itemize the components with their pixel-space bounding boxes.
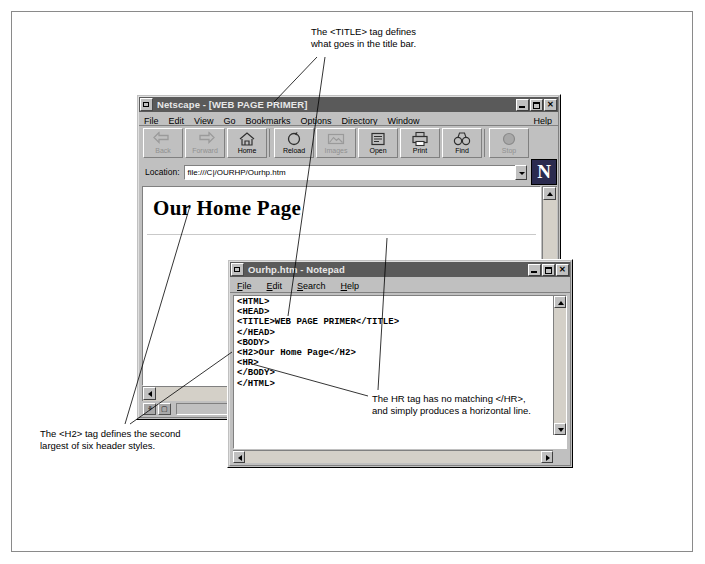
netscape-window-controls: ✕: [516, 99, 557, 111]
toolbar-back-button[interactable]: Back: [143, 128, 183, 158]
notepad-scroll-right-arrow-icon[interactable]: [541, 451, 553, 463]
notepad-menu-file[interactable]: File: [230, 281, 257, 291]
notepad-window[interactable]: Ourhp.htm - Notepad ✕ File Edit Search H…: [227, 259, 573, 468]
netscape-logo[interactable]: N: [531, 159, 557, 185]
binoculars-icon: [443, 130, 481, 147]
notepad-minimize-button[interactable]: [528, 264, 541, 276]
toolbar-reload-button[interactable]: Reload: [274, 128, 314, 158]
notepad-menubar[interactable]: File Edit Search Help: [230, 279, 570, 293]
toolbar-stop-label: Stop: [490, 147, 528, 155]
page-heading: Our Home Page: [153, 196, 301, 221]
annotation-h2-tag: The <H2> tag defines the second largest …: [40, 428, 181, 451]
location-dropdown-icon[interactable]: [515, 165, 527, 180]
page-horizontal-rule: [147, 234, 536, 235]
scroll-left-arrow-icon[interactable]: [143, 387, 156, 400]
house-icon: [228, 130, 266, 147]
notepad-scroll-down-arrow-icon[interactable]: [554, 423, 566, 435]
toolbar-separator-2: [484, 129, 485, 157]
toolbar-stop-button[interactable]: Stop: [489, 128, 529, 158]
menubar-divider: [139, 125, 558, 126]
printer-icon: [401, 130, 439, 147]
toolbar-forward-button[interactable]: Forward: [185, 128, 225, 158]
toolbar-forward-label: Forward: [186, 147, 224, 155]
images-icon: [317, 130, 355, 147]
notepad-system-menu-icon[interactable]: [231, 263, 244, 276]
toolbar-home-label: Home: [228, 147, 266, 155]
notepad-horizontal-scrollbar[interactable]: [233, 450, 553, 463]
netscape-toolbar: Back Forward Home Reload Images: [140, 127, 557, 159]
notepad-window-controls: ✕: [528, 264, 569, 276]
page-status-icon[interactable]: ▢: [158, 403, 171, 415]
netscape-system-menu-icon[interactable]: [140, 98, 153, 111]
notepad-menu-edit[interactable]: Edit: [257, 281, 288, 291]
notepad-title-text: Ourhp.htm - Notepad: [248, 264, 524, 275]
toolbar-print-label: Print: [401, 147, 439, 155]
open-icon: [359, 130, 397, 147]
netscape-titlebar[interactable]: Netscape - [WEB PAGE PRIMER] ✕: [139, 97, 558, 112]
notepad-scroll-left-arrow-icon[interactable]: [233, 451, 245, 463]
maximize-button[interactable]: [530, 99, 543, 111]
reload-icon: [275, 130, 313, 147]
location-label: Location:: [145, 167, 180, 177]
notepad-menubar-divider: [230, 292, 570, 293]
notepad-vertical-scrollbar[interactable]: [553, 296, 566, 435]
toolbar-back-label: Back: [144, 147, 182, 155]
location-bar: Location: file:///C|/OURHP/Ourhp.htm: [140, 161, 557, 183]
stop-sign-icon: [490, 130, 528, 147]
toolbar-images-label: Images: [317, 147, 355, 155]
minimize-button[interactable]: [516, 99, 529, 111]
toolbar-print-button[interactable]: Print: [400, 128, 440, 158]
notepad-maximize-button[interactable]: [542, 264, 555, 276]
location-input[interactable]: file:///C|/OURHP/Ourhp.htm: [184, 165, 517, 180]
notepad-menu-help[interactable]: Help: [331, 281, 365, 291]
notepad-text-area[interactable]: <HTML> <HEAD> <TITLE>WEB PAGE PRIMER</TI…: [233, 295, 567, 449]
toolbar-open-label: Open: [359, 147, 397, 155]
back-arrow-icon: [144, 130, 182, 147]
close-button[interactable]: ✕: [544, 99, 557, 111]
notepad-close-button[interactable]: ✕: [556, 264, 569, 276]
toolbar-separator-1: [269, 129, 270, 157]
netscape-title-text: Netscape - [WEB PAGE PRIMER]: [157, 99, 512, 110]
toolbar-open-button[interactable]: Open: [358, 128, 398, 158]
toolbar-find-label: Find: [443, 147, 481, 155]
forward-arrow-icon: [186, 130, 224, 147]
scroll-up-arrow-icon[interactable]: [543, 187, 556, 200]
security-key-icon[interactable]: ⚘: [143, 403, 156, 415]
notepad-source-text: <HTML> <HEAD> <TITLE>WEB PAGE PRIMER</TI…: [237, 297, 550, 389]
annotation-hr-tag: The HR tag has no matching </HR>, and si…: [372, 393, 531, 416]
annotation-title-tag: The <TITLE> tag defines what goes in the…: [311, 26, 416, 49]
notepad-titlebar[interactable]: Ourhp.htm - Notepad ✕: [230, 262, 570, 277]
toolbar-reload-label: Reload: [275, 147, 313, 155]
notepad-menu-search[interactable]: Search: [287, 281, 331, 291]
toolbar-find-button[interactable]: Find: [442, 128, 482, 158]
notepad-scroll-up-arrow-icon[interactable]: [554, 296, 566, 308]
toolbar-images-button[interactable]: Images: [316, 128, 356, 158]
toolbar-home-button[interactable]: Home: [227, 128, 267, 158]
